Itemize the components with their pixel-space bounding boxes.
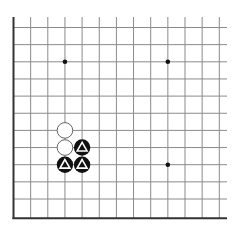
black-stone[interactable] <box>57 157 73 173</box>
board-grid <box>13 17 228 219</box>
star-point <box>166 60 171 65</box>
star-point <box>63 60 68 65</box>
go-board[interactable] <box>0 0 239 231</box>
white-stone[interactable] <box>57 140 73 156</box>
black-stone[interactable] <box>74 139 90 155</box>
star-point <box>166 162 171 167</box>
white-stone-circle <box>57 123 73 139</box>
white-stone-circle <box>57 140 73 156</box>
black-stone[interactable] <box>74 157 90 173</box>
white-stone[interactable] <box>57 123 73 139</box>
